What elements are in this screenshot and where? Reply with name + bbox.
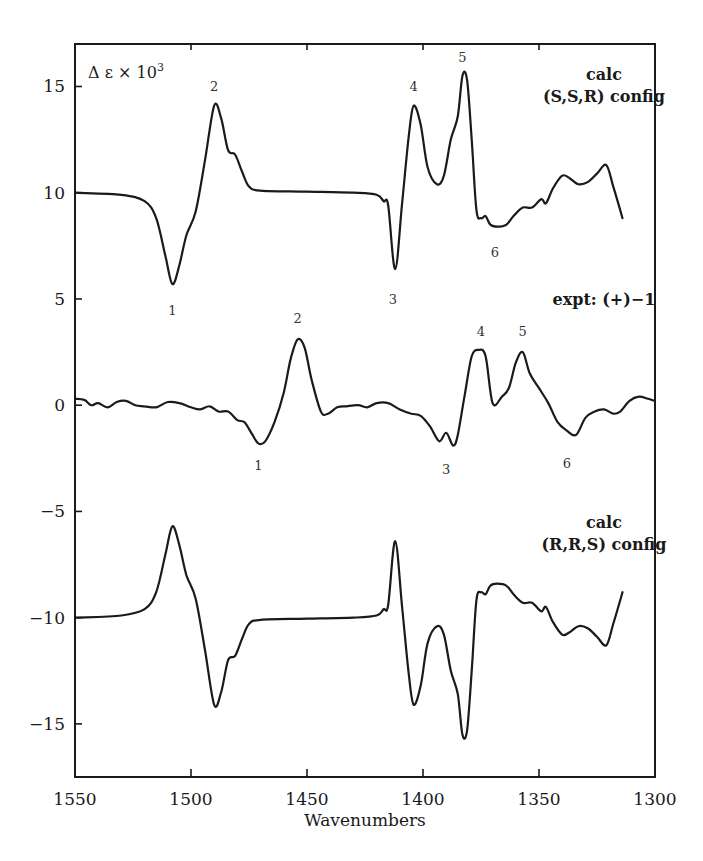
ecd-spectrum-chart: 155015001450140013501300 151050−5−10−15 …	[0, 0, 703, 861]
peak-number-label: 3	[442, 462, 450, 477]
panel-annotation: calc	[586, 65, 622, 84]
peak-number-label: 1	[254, 458, 262, 473]
panel-labels: calc(S,S,R) configexpt: (+)−1calc(R,R,S)…	[542, 65, 667, 554]
peak-number-label: 2	[210, 79, 218, 94]
spectra-curves	[75, 72, 655, 739]
y-tick-label: −15	[29, 714, 65, 734]
peak-number-label: 4	[410, 79, 418, 94]
calc-rrs-curve	[75, 526, 623, 739]
x-tick-label: 1550	[53, 789, 96, 809]
x-tick-label: 1500	[169, 789, 212, 809]
expt-curve	[75, 339, 655, 446]
panel-annotation: (S,S,R) config	[543, 87, 665, 106]
y-tick-label: 15	[43, 76, 65, 96]
y-tick-label: 0	[54, 395, 65, 415]
y-tick-label: 5	[54, 289, 65, 309]
peak-number-label: 3	[389, 292, 397, 307]
y-axis-label-exponent: 3	[157, 61, 164, 74]
y-tick-label: −10	[29, 608, 65, 628]
peak-number-label: 5	[458, 50, 466, 65]
y-tick-label: 10	[43, 183, 65, 203]
plot-border	[75, 44, 655, 777]
panel-annotation: expt: (+)−1	[553, 290, 656, 309]
peak-number-label: 6	[563, 456, 571, 471]
x-tick-label: 1300	[633, 789, 676, 809]
y-tick-label: −5	[40, 501, 65, 521]
y-axis-label-base: Δ ε × 10	[88, 63, 157, 82]
peak-number-label: 5	[519, 324, 527, 339]
peak-number-label: 4	[477, 324, 485, 339]
peak-number-label: 1	[168, 303, 176, 318]
x-axis: 155015001450140013501300	[53, 44, 676, 809]
x-tick-label: 1450	[285, 789, 328, 809]
calc-ssr-curve	[75, 72, 623, 285]
peak-number-label: 6	[491, 245, 499, 260]
panel-annotation: calc	[586, 513, 622, 532]
plot-frame	[75, 44, 655, 777]
x-tick-label: 1350	[517, 789, 560, 809]
x-axis-title: Wavenumbers	[304, 810, 426, 830]
peak-number-label: 2	[294, 311, 302, 326]
panel-annotation: (R,R,S) config	[542, 535, 667, 554]
y-axis-label: Δ ε × 103	[88, 61, 164, 82]
x-tick-label: 1400	[401, 789, 444, 809]
